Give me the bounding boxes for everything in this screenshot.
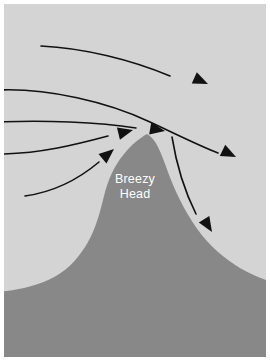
- diagram-scene: Breezy Head: [4, 4, 266, 357]
- diagram-svg: [4, 4, 266, 357]
- wind-flow-diagram: Breezy Head: [0, 0, 270, 361]
